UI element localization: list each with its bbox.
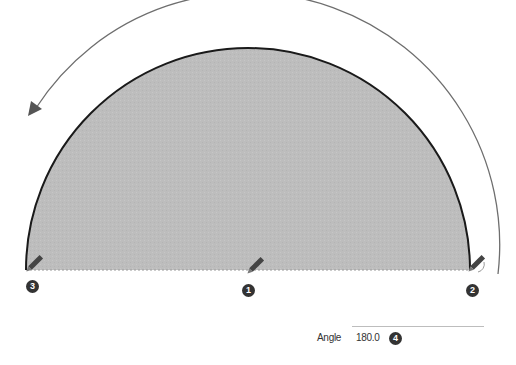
angle-value: 180.0 bbox=[356, 332, 380, 343]
angle-input[interactable]: 180.0 bbox=[352, 326, 484, 349]
step-badge-4: 4 bbox=[389, 332, 402, 345]
point-badge-1: 1 bbox=[242, 284, 255, 297]
semicircle-face bbox=[26, 48, 470, 270]
diagram-canvas bbox=[0, 0, 516, 365]
angle-label: Angle bbox=[317, 332, 341, 343]
point-badge-2: 2 bbox=[466, 284, 479, 297]
measurements-box: Angle 180.0 4 bbox=[300, 326, 490, 350]
point-badge-3: 3 bbox=[26, 280, 39, 293]
